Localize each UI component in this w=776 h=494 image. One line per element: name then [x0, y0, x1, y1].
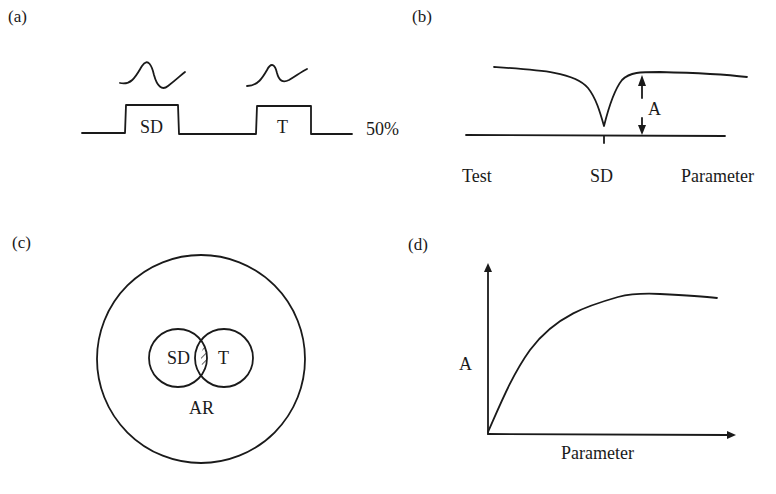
- response-curve: [494, 67, 747, 126]
- x-label-sd: SD: [590, 166, 613, 186]
- overlap-region: [201, 329, 259, 387]
- x-axis-arrow-icon: [727, 431, 736, 439]
- amplitude-curve: [488, 294, 717, 432]
- panel-b: (b) A Test SD Parameter: [412, 7, 754, 186]
- circle-label-t: T: [218, 348, 229, 368]
- pulse-waveform: [82, 105, 352, 134]
- arrowhead-down-icon: [638, 125, 646, 135]
- x-axis-label: Parameter: [561, 443, 634, 463]
- outer-circle-ar: [97, 255, 305, 463]
- x-label-parameter: Parameter: [681, 166, 754, 186]
- panel-label-a: (a): [8, 7, 27, 26]
- y-axis-label: A: [459, 354, 472, 374]
- stimulus-wave-t: [247, 65, 307, 86]
- amplitude-label: A: [648, 99, 661, 119]
- x-axis: [488, 434, 728, 435]
- panel-a: (a) SD T 50%: [8, 7, 399, 139]
- baseline: [466, 135, 725, 136]
- panel-c: (c) SD T AR: [12, 233, 305, 463]
- panel-label-b: (b): [412, 7, 432, 26]
- outer-label-ar: AR: [189, 398, 214, 418]
- arrowhead-up-icon: [638, 75, 646, 86]
- stimulus-wave-sd: [120, 62, 185, 88]
- figure-canvas: (a) SD T 50% (b) A Test SD Parameter (c): [0, 0, 776, 494]
- circle-label-sd: SD: [167, 348, 190, 368]
- level-label: 50%: [366, 119, 399, 139]
- panel-label-d: (d): [408, 235, 428, 254]
- pulse-label-t: T: [277, 117, 288, 137]
- panel-d: (d) A Parameter: [408, 235, 736, 463]
- x-label-test: Test: [462, 166, 492, 186]
- pulse-label-sd: SD: [140, 117, 163, 137]
- panel-label-c: (c): [12, 233, 31, 252]
- y-axis-arrow-icon: [484, 263, 492, 272]
